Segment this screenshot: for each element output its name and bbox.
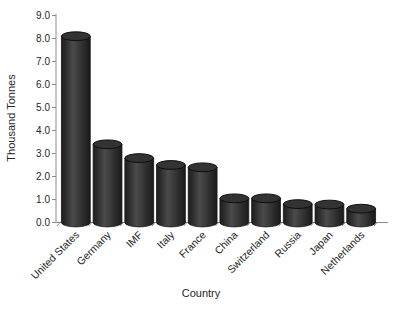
y-tick-label: 7.0: [36, 56, 50, 67]
bar-top-united-states: [61, 32, 90, 41]
bar-body-italy: [157, 165, 186, 227]
bar-top-imf: [125, 154, 154, 163]
x-tick-label-japan: Japan: [306, 228, 335, 257]
x-tick-label-italy: Italy: [154, 228, 177, 251]
y-tick-label: 8.0: [36, 33, 50, 44]
y-tick-label: 5.0: [36, 102, 50, 113]
y-axis-title: Thousand Tonnes: [5, 74, 17, 162]
bar-body-germany: [93, 144, 122, 227]
bar-body-imf: [125, 158, 154, 227]
bar-top-italy: [157, 161, 186, 170]
x-tick-label-united-states: United States: [28, 228, 81, 281]
y-tick-label: 4.0: [36, 125, 50, 136]
bar-top-japan: [315, 200, 344, 209]
y-tick-label: 3.0: [36, 148, 50, 159]
chart-figure: 0.01.02.03.04.05.06.07.08.09.0United Sta…: [0, 0, 394, 318]
bar-chart-canvas: 0.01.02.03.04.05.06.07.08.09.0United Sta…: [0, 0, 394, 318]
x-axis-title: Country: [182, 287, 221, 299]
x-tick-label-russia: Russia: [272, 228, 303, 259]
y-tick-label: 6.0: [36, 79, 50, 90]
y-tick-label: 0.0: [36, 217, 50, 228]
bar-top-france: [188, 163, 217, 172]
y-tick-label: 2.0: [36, 171, 50, 182]
bar-top-germany: [93, 140, 122, 149]
x-tick-label-france: France: [176, 228, 208, 260]
bar-top-netherlands: [347, 204, 376, 213]
bar-top-china: [220, 194, 249, 203]
x-tick-label-imf: IMF: [123, 228, 144, 249]
x-tick-label-china: China: [212, 228, 240, 256]
x-tick-label-germany: Germany: [74, 228, 114, 268]
bar-top-russia: [283, 200, 312, 209]
y-tick-label: 1.0: [36, 194, 50, 205]
bar-body-united-states: [61, 36, 90, 227]
y-tick-label: 9.0: [36, 10, 50, 21]
bar-body-france: [188, 167, 217, 227]
plot-area: 0.01.02.03.04.05.06.07.08.09.0United Sta…: [28, 10, 388, 281]
bar-top-switzerland: [252, 194, 281, 203]
x-tick: [57, 223, 60, 227]
